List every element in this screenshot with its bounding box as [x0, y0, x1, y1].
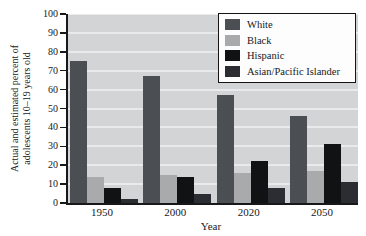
bar-asian-pacific-islander-2000 — [194, 194, 211, 203]
legend-swatch-white — [225, 19, 240, 30]
legend-label-black: Black — [247, 34, 272, 47]
bar-hispanic-2000 — [177, 177, 194, 203]
x-tick-label-2000: 2000 — [145, 206, 205, 218]
legend-swatch-asian-pacific-islander — [225, 66, 240, 77]
bar-asian-pacific-islander-2020 — [268, 188, 285, 203]
bar-asian-pacific-islander-1950 — [121, 199, 138, 203]
bar-chart-figure: Actual and estimated percent of adolesce… — [0, 0, 366, 236]
bar-white-2000 — [143, 76, 160, 203]
y-tick-label-30: 30 — [26, 140, 58, 152]
legend-label-white: White — [247, 18, 273, 31]
y-tick-label-60: 60 — [26, 84, 58, 96]
legend-swatch-hispanic — [225, 50, 240, 61]
bar-white-1950 — [70, 61, 87, 203]
y-axis-title-line1: Actual and estimated percent of — [9, 14, 21, 203]
legend-entry-black: Black — [225, 34, 349, 47]
bar-group-1950 — [70, 14, 138, 203]
y-tick-label-90: 90 — [26, 27, 58, 39]
x-tick-label-2020: 2020 — [219, 206, 279, 218]
bar-black-2020 — [234, 173, 251, 203]
bar-asian-pacific-islander-2050 — [341, 182, 358, 203]
bar-hispanic-1950 — [104, 188, 121, 203]
x-tick-label-1950: 1950 — [72, 206, 132, 218]
bar-group-2000 — [143, 14, 211, 203]
y-tick-label-20: 20 — [26, 159, 58, 171]
bar-white-2050 — [290, 116, 307, 203]
legend: WhiteBlackHispanicAsian/Pacific Islander — [218, 13, 356, 83]
y-tick-label-80: 80 — [26, 46, 58, 58]
legend-swatch-black — [225, 35, 240, 46]
x-axis-title: Year — [66, 220, 356, 232]
legend-entry-asian-pacific-islander: Asian/Pacific Islander — [225, 65, 349, 78]
y-tick-label-0: 0 — [26, 197, 58, 209]
legend-label-hispanic: Hispanic — [247, 49, 284, 62]
bar-white-2020 — [217, 95, 234, 203]
y-tick-label-100: 100 — [26, 8, 58, 20]
y-tick-label-40: 40 — [26, 121, 58, 133]
bar-black-2000 — [160, 175, 177, 203]
bar-hispanic-2020 — [251, 161, 268, 203]
legend-entry-white: White — [225, 18, 349, 31]
legend-entry-hispanic: Hispanic — [225, 49, 349, 62]
y-tick-label-10: 10 — [26, 178, 58, 190]
bar-black-2050 — [307, 171, 324, 203]
bar-black-1950 — [87, 177, 104, 203]
legend-label-asian-pacific-islander: Asian/Pacific Islander — [247, 65, 340, 78]
y-tick-label-50: 50 — [26, 103, 58, 115]
y-tick-label-70: 70 — [26, 65, 58, 77]
x-tick-label-2050: 2050 — [292, 206, 352, 218]
bar-hispanic-2050 — [324, 144, 341, 203]
